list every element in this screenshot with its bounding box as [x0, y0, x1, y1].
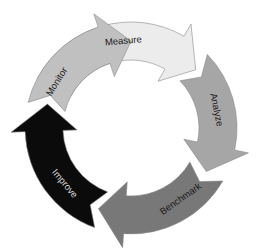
arrow-segment-improve — [11, 104, 108, 228]
cycle-arrows — [11, 14, 248, 248]
cycle-diagram: MeasureAnalyzeBenchmarkImproveMonitor — [0, 0, 260, 252]
